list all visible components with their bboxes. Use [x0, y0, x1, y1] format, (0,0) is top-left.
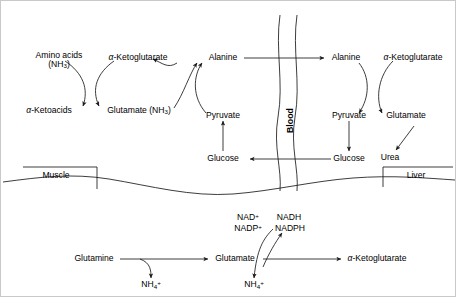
label-liver: Liver — [407, 171, 426, 180]
label-ketoglutarate-bottom: α-Ketoglutarate — [348, 254, 407, 263]
label-glucose-muscle: Glucose — [207, 154, 239, 163]
label-glutamate-liver: Glutamate — [386, 111, 426, 120]
label-glucose-liver: Glucose — [333, 154, 365, 163]
label-ammonium-1: NH4+ — [141, 280, 161, 290]
label-keto-acids: α-Ketoacids — [26, 106, 72, 115]
label-glutamate-muscle: Glutamate (NH3) — [107, 106, 171, 116]
blood-vessel-right-wall — [293, 15, 297, 191]
arc-ketoglutarate-to-glutamate — [95, 61, 114, 106]
label-nadh: NADH — [277, 213, 301, 222]
arc-cofactors-in — [254, 229, 273, 278]
arc-pyruvate-to-alanine — [195, 63, 206, 113]
arc-glutamate-to-alanine — [174, 63, 197, 108]
label-nad-plus: NAD+ — [237, 213, 259, 222]
label-nadp-plus: NADP+ — [234, 224, 262, 233]
label-ketoglutarate-muscle: α-Ketoglutarate — [109, 53, 168, 62]
label-pyruvate-liver: Pyruvate — [332, 111, 366, 120]
label-muscle: Muscle — [42, 171, 69, 180]
label-amino-acids: Amino acids (NH3) — [36, 51, 83, 70]
arc-ketoglutarate-to-glutamate-liver — [379, 61, 393, 113]
label-ketoglutarate-liver: α-Ketoglutarate — [384, 53, 443, 62]
body-outline — [3, 176, 455, 195]
label-alanine-liver: Alanine — [332, 53, 361, 62]
label-blood: Blood — [285, 108, 295, 133]
label-glutamine: Glutamine — [74, 254, 113, 263]
label-amino-acids-group: (NH3) — [48, 59, 70, 69]
label-alanine-muscle: Alanine — [209, 53, 238, 62]
label-nadph: NADPH — [275, 224, 305, 233]
arc-glutamine-to-ammonium — [140, 259, 151, 278]
diagram-canvas: Amino acids (NH3) α-Ketoacids α-Ketoglut… — [0, 0, 456, 297]
label-urea: Urea — [381, 153, 400, 162]
blood-vessel-left-wall — [276, 15, 280, 191]
label-glutamate-bottom: Glutamate — [215, 254, 255, 263]
label-ammonium-2: NH4+ — [244, 280, 264, 290]
arc-alanine-to-pyruvate-liver — [359, 63, 367, 113]
label-pyruvate-muscle: Pyruvate — [206, 111, 240, 120]
arrow-glutamate-to-urea — [396, 126, 414, 150]
